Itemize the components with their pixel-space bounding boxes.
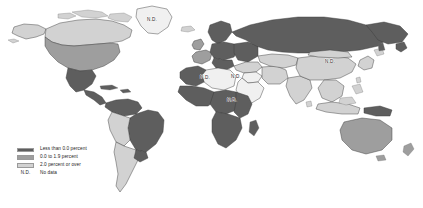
legend-row-nodata: N.D. No data: [17, 170, 122, 177]
nd-label-horn-of-africa: N.D.: [227, 99, 237, 104]
region-sri-lanka: [306, 101, 312, 107]
legend-row-negative: Less than 0.0 percent: [17, 146, 122, 153]
legend-label-low: 0.0 to 1.9 percent: [40, 155, 78, 160]
legend-swatch-low: [17, 155, 34, 159]
nd-label-north-africa: N.D.: [200, 76, 210, 81]
nd-label-arabian-peninsula: N.D.: [231, 75, 241, 80]
legend-label-negative: Less than 0.0 percent: [40, 147, 87, 152]
legend-row-low: 0.0 to 1.9 percent: [17, 154, 122, 161]
legend-label-high: 2.0 percent or over: [40, 163, 81, 168]
legend-label-nodata: No data: [40, 171, 57, 176]
legend-row-high: 2.0 percent or over: [17, 162, 122, 169]
region-taiwan: [356, 77, 361, 83]
nd-label-east-asia: N.D.: [325, 60, 335, 65]
nd-label-greenland: N.D.: [147, 18, 157, 23]
region-tasmania: [376, 155, 386, 161]
legend-swatch-negative: [17, 148, 34, 152]
map-figure: .c-neg { fill:#5e5e5e; } .c-low { fill:#…: [0, 0, 423, 208]
legend-nd-abbrev: N.D.: [17, 171, 34, 176]
map-legend: Less than 0.0 percent 0.0 to 1.9 percent…: [17, 146, 122, 178]
legend-swatch-high: [17, 163, 34, 167]
